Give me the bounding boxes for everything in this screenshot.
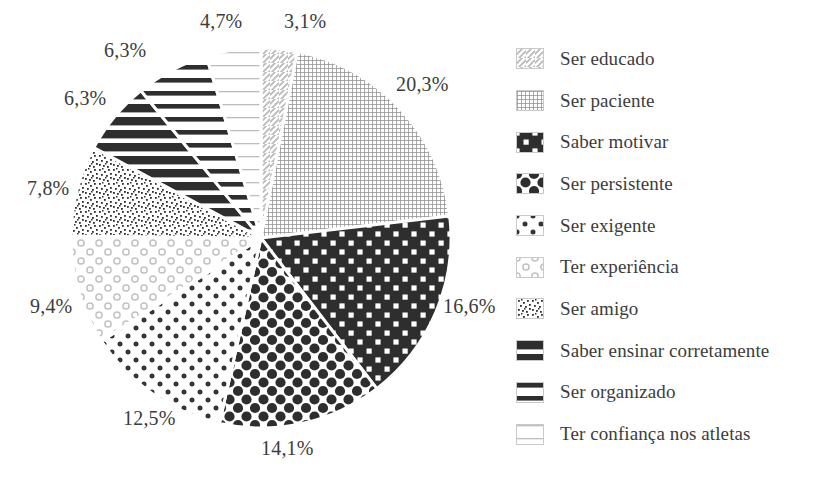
legend-item[interactable]: Ser educado bbox=[516, 38, 816, 80]
legend-swatch-icon bbox=[516, 215, 544, 236]
pie-percentage-label: 4,7% bbox=[200, 10, 242, 33]
pie-percentage-label: 20,3% bbox=[396, 73, 449, 96]
legend-item-label: Ser organizado bbox=[560, 381, 676, 403]
legend-item-label: Ser exigente bbox=[560, 215, 656, 237]
legend-swatch-icon bbox=[516, 48, 544, 69]
legend-swatch-icon bbox=[516, 298, 544, 319]
pie-percentage-label: 7,8% bbox=[27, 177, 69, 200]
pie-percentage-label: 9,4% bbox=[30, 295, 72, 318]
legend-swatch-icon bbox=[516, 257, 544, 278]
legend-item-label: Ser persistente bbox=[560, 173, 673, 195]
legend-swatch-icon bbox=[516, 132, 544, 153]
legend-swatch-icon bbox=[516, 382, 544, 403]
legend-item[interactable]: Saber ensinar corretamente bbox=[516, 330, 816, 372]
pie-chart-figure: 3,1%20,3%16,6%14,1%12,5%9,4%7,8%6,3%6,3%… bbox=[0, 0, 829, 477]
legend-swatch-icon bbox=[516, 340, 544, 361]
legend-swatch-icon bbox=[516, 424, 544, 445]
legend-item-label: Saber ensinar corretamente bbox=[560, 340, 769, 362]
chart-legend: Ser educado Ser pacienteSaber motivarSer… bbox=[516, 38, 816, 455]
pie-percentage-label: 6,3% bbox=[104, 39, 146, 62]
legend-item[interactable]: Ser paciente bbox=[516, 80, 816, 122]
legend-item[interactable]: Saber motivar bbox=[516, 121, 816, 163]
legend-item-label: Ser educado bbox=[560, 48, 654, 70]
pie-percentage-label: 14,1% bbox=[261, 437, 314, 460]
pie-percentage-label: 16,6% bbox=[443, 295, 496, 318]
pie-percentage-label: 6,3% bbox=[64, 87, 106, 110]
legend-swatch-icon bbox=[516, 173, 544, 194]
legend-item-label: Ter experiência bbox=[560, 256, 679, 278]
legend-item-label: Ser paciente bbox=[560, 90, 655, 112]
legend-item-label: Ter confiança nos atletas bbox=[560, 423, 751, 445]
pie-slices-group bbox=[71, 48, 451, 428]
legend-item-label: Saber motivar bbox=[560, 131, 668, 153]
pie-percentage-label: 12,5% bbox=[123, 407, 176, 430]
legend-item[interactable]: Ser persistente bbox=[516, 163, 816, 205]
pie-percentage-label: 3,1% bbox=[284, 10, 326, 33]
legend-item[interactable]: Ter confiança nos atletas bbox=[516, 413, 816, 455]
legend-item[interactable]: Ser amigo bbox=[516, 288, 816, 330]
legend-item[interactable]: Ser organizado bbox=[516, 372, 816, 414]
legend-swatch-icon bbox=[516, 90, 544, 111]
legend-item[interactable]: Ser exigente bbox=[516, 205, 816, 247]
legend-item[interactable]: Ter experiência bbox=[516, 246, 816, 288]
legend-item-label: Ser amigo bbox=[560, 298, 638, 320]
